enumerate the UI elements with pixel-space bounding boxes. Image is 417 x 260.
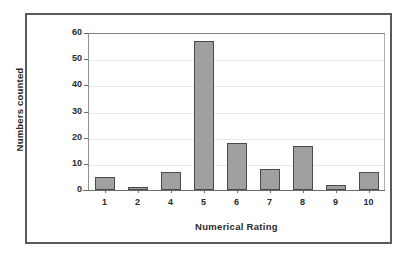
x-axis-tick-mark bbox=[105, 190, 106, 193]
bar bbox=[95, 177, 115, 190]
bar bbox=[293, 146, 313, 190]
y-axis-tick-label: 40 bbox=[28, 80, 82, 89]
y-axis-title: Numbers counted bbox=[14, 55, 25, 165]
x-axis-tick-mark bbox=[204, 190, 205, 193]
x-axis-tick-mark bbox=[237, 190, 238, 193]
x-axis-tick-mark bbox=[336, 190, 337, 193]
x-axis-title: Numerical Rating bbox=[88, 221, 385, 232]
bar bbox=[194, 41, 214, 190]
y-axis-tick-label: 60 bbox=[28, 28, 82, 37]
x-axis-tick-mark bbox=[138, 190, 139, 193]
chart-figure: 0102030405060 1245678910 Numerical Ratin… bbox=[0, 0, 417, 260]
bar bbox=[260, 169, 280, 190]
y-axis-tick-labels: 0102030405060 bbox=[24, 0, 82, 260]
x-axis-tick-mark bbox=[171, 190, 172, 193]
y-axis-tick-label: 50 bbox=[28, 54, 82, 63]
y-axis-tick-label: 30 bbox=[28, 107, 82, 116]
y-axis-tick-label: 20 bbox=[28, 133, 82, 142]
x-axis-tick-mark bbox=[369, 190, 370, 193]
x-axis-tick-mark bbox=[270, 190, 271, 193]
bar bbox=[359, 172, 379, 190]
bar bbox=[161, 172, 181, 190]
x-axis-tick-mark bbox=[303, 190, 304, 193]
y-axis-tick-label: 10 bbox=[28, 159, 82, 168]
bar bbox=[227, 143, 247, 190]
x-axis-tick-label: 10 bbox=[349, 197, 389, 207]
y-axis-tick-label: 0 bbox=[28, 185, 82, 194]
bar-series bbox=[88, 33, 385, 190]
